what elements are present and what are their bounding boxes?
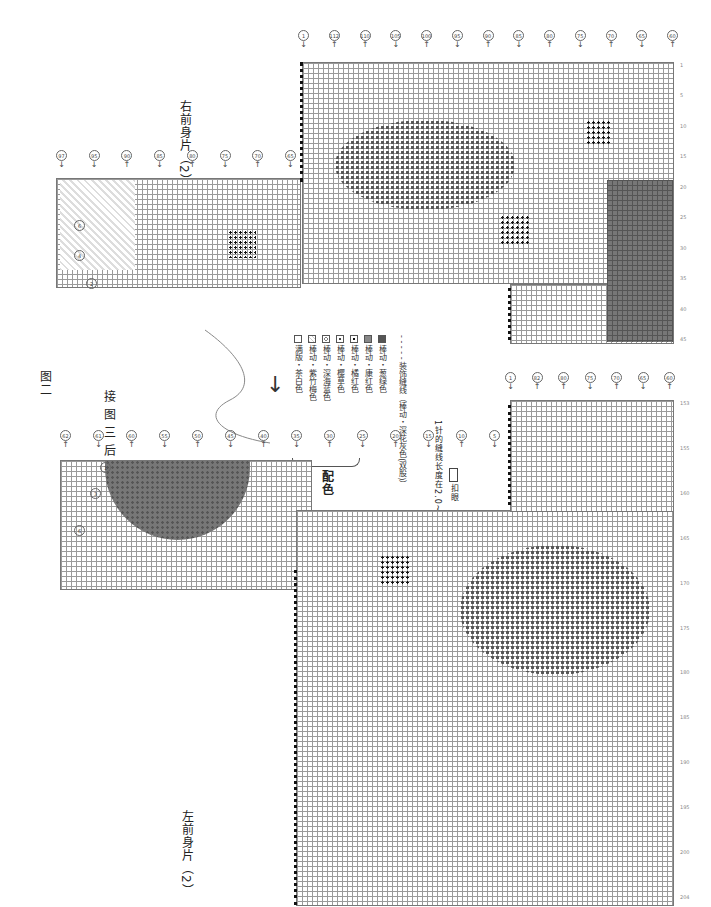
row-label: 62↑ (60, 430, 71, 449)
legend-heading: 配色 (318, 470, 335, 496)
left-front-top-row-labels: 62↑ 61↓ 60↑ 55↓ 50↑ 45↓ 40↑ 35↓ 30↑ 25↓ … (60, 430, 500, 449)
piece-title-left-front: 左前身片（2） (178, 810, 195, 897)
row-label: 95↓ (89, 150, 100, 169)
row-label: 85↓ (154, 150, 165, 169)
row-label: 45↓ (225, 430, 236, 449)
row-label: 65↓ (638, 372, 649, 391)
dot-square-icon (350, 335, 358, 343)
right-front-flower-motif (335, 120, 515, 210)
step-marker: 3 (90, 488, 101, 499)
step-marker: 4 (74, 250, 85, 261)
direction-arrow-icon: ↓ (266, 374, 284, 396)
row-label: 1↓ (505, 372, 516, 391)
right-front-step-labels: 97↓ 95↓ 90↑ 85↓ 80↑ 75↓ 70↑ 65↓ (56, 150, 296, 169)
right-front-dot-motif-1 (228, 230, 256, 258)
row-label: 70↑ (252, 150, 263, 169)
row-label: 15↓ (423, 430, 434, 449)
gray-filled-square-icon (364, 335, 372, 343)
row-label: 60↑ (667, 30, 678, 49)
right-front-dot-motif-3 (586, 120, 612, 146)
buttonhole-legend: 扣眼 (448, 468, 459, 502)
left-front-column-numbers: 153 155 160 165 170 175 180 185 190 195 … (680, 400, 690, 900)
legend-item: 棒动・康红色 (362, 335, 373, 488)
dark-filled-square-icon (378, 335, 386, 343)
row-label: 112↑ (329, 30, 340, 49)
left-front-flower-motif (460, 545, 650, 675)
empty-square-icon (294, 335, 302, 343)
buttonhole-icon (449, 468, 458, 482)
left-front-button-edge-upper (508, 405, 511, 505)
row-label: 70↑ (611, 372, 622, 391)
left-front-grid-lower (510, 400, 674, 512)
row-label: 50↑ (192, 430, 203, 449)
right-front-triangle-region (60, 180, 135, 270)
row-label: 30↑ (324, 430, 335, 449)
piece-title-right-front: 右前身片（2） (176, 100, 193, 187)
row-label: 90↑ (121, 150, 132, 169)
row-label: 61↓ (93, 430, 104, 449)
row-label: 70↑ (606, 30, 617, 49)
row-label: 65↓ (285, 150, 296, 169)
row-label: 80↑ (544, 30, 555, 49)
row-label: 82↑ (532, 372, 543, 391)
right-front-button-edge-lower (508, 288, 511, 340)
row-label: 110↑ (360, 30, 371, 49)
row-label: 97↓ (56, 150, 67, 169)
right-front-top-row-labels: 1↓ 112↑ 110↑ 105↓ 100↑ 95↓ 90↑ 85↓ 80↑ 7… (298, 30, 678, 49)
row-label: 85↓ (513, 30, 524, 49)
row-label: 1↓ (298, 30, 309, 49)
row-label: 55↓ (159, 430, 170, 449)
row-label: 20↑ (390, 430, 401, 449)
right-front-dot-motif-2 (500, 215, 530, 245)
left-front-lower-section-labels: 1↓ 82↑ 80↑ 75↓ 70↑ 65↓ 60↑ (505, 372, 675, 391)
dot-circle-square-icon (336, 335, 344, 343)
row-label: 10↑ (456, 430, 467, 449)
row-label: 90↑ (483, 30, 494, 49)
left-front-button-edge (294, 570, 297, 905)
row-label: 95↓ (452, 30, 463, 49)
triangle-square-icon (308, 335, 316, 343)
row-label: 105↓ (390, 30, 401, 49)
row-label: 5↓ (489, 430, 500, 449)
step-marker: 6 (74, 525, 85, 536)
right-front-dark-band (607, 180, 673, 342)
row-label: 80↑ (558, 372, 569, 391)
row-label: 75↓ (585, 372, 596, 391)
step-marker: 1 (100, 462, 111, 473)
circle-square-icon (322, 335, 330, 343)
row-label: 60↑ (664, 372, 675, 391)
row-label: 65↓ (636, 30, 647, 49)
row-label: 75↓ (220, 150, 231, 169)
left-front-dot-motif (380, 555, 410, 585)
row-label: 35↓ (291, 430, 302, 449)
row-label: 40↑ (258, 430, 269, 449)
right-front-button-edge (300, 62, 303, 182)
step-marker: 6 (74, 220, 85, 231)
row-label: 100↑ (421, 30, 432, 49)
row-label: 75↓ (575, 30, 586, 49)
legend-item: 棒动・葱绿色 (376, 335, 387, 488)
stitch-line-note: - - - - - 装饰缝线（棒动・深花灰色(双股)） (396, 335, 407, 488)
step-marker: 2 (86, 278, 97, 289)
figure-label: 图二 (36, 370, 53, 396)
row-label: 25↓ (357, 430, 368, 449)
row-label: 80↑ (187, 150, 198, 169)
right-front-column-numbers: 1 5 10 15 20 25 30 35 40 45 (680, 62, 686, 342)
row-label: 60↑ (126, 430, 137, 449)
